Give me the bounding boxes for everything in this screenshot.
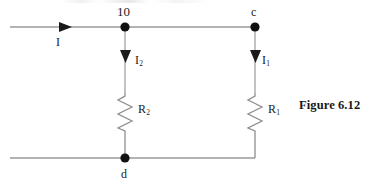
- resistor-label-r2: R2: [138, 103, 150, 115]
- current-label-i: I: [56, 36, 60, 48]
- resistor-r1-zigzag: [248, 93, 262, 158]
- circuit-figure: 10 c d I I2 I1 R2 R1 Figure 6.12: [0, 0, 378, 191]
- current-label-i-base: I: [56, 35, 60, 49]
- current-arrow-i2: [120, 50, 131, 63]
- resistor-r2-zigzag: [118, 93, 132, 158]
- resistor-label-r2-base: R: [138, 102, 146, 116]
- node-label-c: c: [251, 6, 256, 18]
- node-label-b: 10: [117, 5, 130, 18]
- circuit-diagram-canvas: [0, 0, 378, 191]
- resistor-label-r1: R1: [268, 103, 280, 115]
- node-dot-c: [250, 22, 259, 31]
- current-label-i1-subscript: 1: [266, 59, 270, 68]
- resistor-label-r1-base: R: [268, 102, 276, 116]
- current-label-i2-subscript: 2: [139, 59, 143, 68]
- node-label-d: d: [121, 168, 127, 180]
- current-label-i2: I2: [135, 54, 143, 66]
- resistor-label-r1-subscript: 1: [276, 108, 280, 117]
- resistor-label-r2-subscript: 2: [146, 108, 150, 117]
- current-label-i1: I1: [262, 54, 270, 66]
- current-arrow-i: [59, 22, 72, 32]
- node-dot-b: [120, 22, 129, 31]
- current-arrow-i1: [250, 50, 261, 63]
- figure-caption: Figure 6.12: [299, 99, 360, 112]
- node-dot-d: [120, 153, 129, 162]
